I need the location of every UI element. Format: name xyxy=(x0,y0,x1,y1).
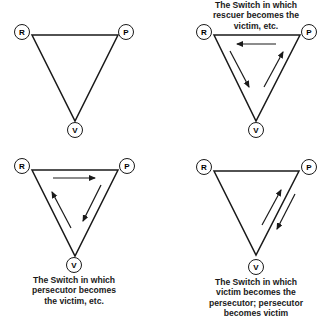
node-r-label: R xyxy=(19,28,25,37)
node-p-label: P xyxy=(124,162,130,171)
caption-line: The Switch in which xyxy=(196,0,316,10)
node-p: P xyxy=(302,160,317,175)
node-p-label: P xyxy=(123,28,129,37)
node-r: R xyxy=(197,160,212,175)
arrow-v-to-r xyxy=(52,192,71,228)
triangle-outline xyxy=(32,35,118,121)
triangle-persecutor-switch: R P V xyxy=(15,159,135,273)
caption-line: rescuer becomes the xyxy=(196,10,316,20)
triangle-base: R P V xyxy=(15,25,134,138)
caption-line: The Switch in which xyxy=(191,277,321,287)
node-v: V xyxy=(249,260,264,275)
triangle-outline xyxy=(214,171,299,255)
node-p: P xyxy=(120,159,135,174)
caption-line: persecutor becomes xyxy=(14,285,134,295)
caption-line: victim becomes the xyxy=(191,287,321,297)
node-v-label: V xyxy=(72,126,78,135)
node-v-label: V xyxy=(71,261,77,270)
caption-line: becomes victim xyxy=(191,308,321,318)
node-v: V xyxy=(67,258,82,273)
caption-persecutor-switch: The Switch in which persecutor becomes t… xyxy=(14,275,134,306)
node-r: R xyxy=(15,159,30,174)
node-v: V xyxy=(68,123,83,138)
node-p: P xyxy=(119,25,134,40)
node-r-label: R xyxy=(19,162,25,171)
node-p-label: P xyxy=(306,163,312,172)
caption-rescuer-switch: The Switch in which rescuer becomes the … xyxy=(196,0,316,31)
arrow-v-to-p xyxy=(264,52,283,87)
arrow-p-to-v xyxy=(277,194,295,229)
triangle-rescuer-switch: R P V xyxy=(197,25,317,138)
arrow-p-to-v xyxy=(83,185,101,221)
caption-line: the victim, etc. xyxy=(14,296,134,306)
node-r-label: R xyxy=(201,163,207,172)
node-v-label: V xyxy=(253,263,259,272)
triangle-outline xyxy=(32,170,118,256)
triangle-outline xyxy=(214,35,300,121)
node-r: R xyxy=(15,25,30,40)
node-v: V xyxy=(249,123,264,138)
caption-line: persecutor; persecutor xyxy=(191,298,321,308)
caption-victim-switch: The Switch in which victim becomes the p… xyxy=(191,277,321,319)
caption-line: The Switch in which xyxy=(14,275,134,285)
node-v-label: V xyxy=(253,126,259,135)
triangle-victim-switch: R P V xyxy=(197,160,317,275)
arrow-v-to-p xyxy=(262,190,281,225)
caption-line: victim, etc. xyxy=(196,21,316,31)
arrow-r-to-v xyxy=(230,51,249,87)
